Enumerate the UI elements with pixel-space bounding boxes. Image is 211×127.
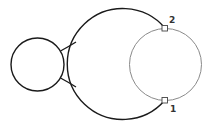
large-arc[interactable] xyxy=(67,9,165,120)
small-circle[interactable] xyxy=(11,38,64,91)
marker-1-label: 1 xyxy=(170,104,176,114)
bottom-fillet[interactable] xyxy=(61,78,77,87)
marker-1-square[interactable] xyxy=(162,98,168,104)
marker-2-square[interactable] xyxy=(162,26,168,32)
top-fillet[interactable] xyxy=(61,42,77,51)
construction-circle[interactable] xyxy=(130,29,202,101)
marker-2-label: 2 xyxy=(169,15,175,25)
geometry-diagram: 2 1 xyxy=(0,0,211,127)
